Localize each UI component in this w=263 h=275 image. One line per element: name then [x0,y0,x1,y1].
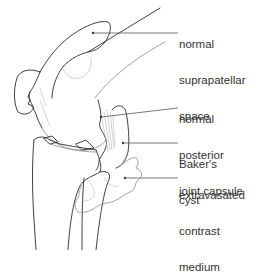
label-line: suprapatellar [179,74,245,86]
joint-space-line [50,144,96,152]
patellar-tendon-edge [28,92,42,128]
femoral-condyle-outline [40,88,50,126]
fibula-anterior [96,171,110,250]
tibia-anterior [33,140,37,250]
label-line: extravasated [179,189,245,201]
femur-posterior-line [95,42,165,98]
bursa-lower-arc [62,58,91,78]
femur-anterior-line [88,8,160,52]
label-extravasated-contrast-medium: extravasated contrast medium [179,165,245,275]
extravasated-contrast-outline [75,158,142,213]
fibula-posterior [82,178,84,250]
label-line: normal [179,38,245,50]
patella-outline [14,70,40,114]
tibia-posterior [68,150,101,250]
label-line: normal [179,113,243,125]
label-line: medium [179,261,245,273]
extravasated-contrast-inner [82,178,118,201]
label-line: contrast [179,225,245,237]
